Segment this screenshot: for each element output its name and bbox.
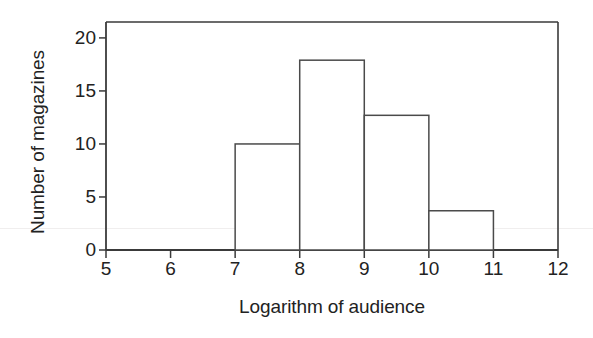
x-tick-label: 10 xyxy=(409,259,449,278)
x-tick-label: 7 xyxy=(215,259,255,278)
x-axis-tick-labels: 56789101112 xyxy=(0,0,593,338)
x-tick-label: 8 xyxy=(280,259,320,278)
x-tick-label: 12 xyxy=(538,259,578,278)
x-tick-label: 9 xyxy=(344,259,384,278)
x-tick-label: 5 xyxy=(86,259,126,278)
x-tick-label: 11 xyxy=(473,259,513,278)
x-tick-label: 6 xyxy=(151,259,191,278)
histogram-figure: Number of magazines Logarithm of audienc… xyxy=(0,0,593,338)
